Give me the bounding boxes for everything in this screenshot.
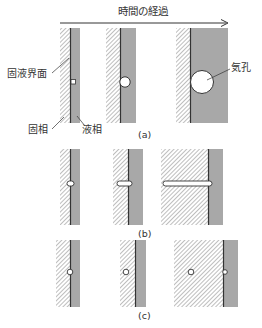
time-axis-title: 時間の経過 xyxy=(118,6,168,17)
label-liquid: 液相 xyxy=(82,125,102,135)
caption-b: (b) xyxy=(138,229,151,239)
row-a xyxy=(52,28,230,129)
pore-small xyxy=(71,80,76,85)
pore-medium xyxy=(120,77,130,87)
time-arrow xyxy=(60,20,228,27)
panel-b2 xyxy=(113,149,143,225)
panel-c1 xyxy=(56,240,80,307)
row-c xyxy=(56,240,238,307)
label-interface: 固液界面 xyxy=(7,69,47,79)
panel-c2 xyxy=(120,240,146,307)
panel-a3 xyxy=(176,28,228,123)
caption-a: (a) xyxy=(138,130,151,140)
panel-a2 xyxy=(106,28,136,123)
label-solid: 固相 xyxy=(28,125,48,135)
panel-c3 xyxy=(174,240,238,307)
panel-a1 xyxy=(60,28,80,123)
caption-c: (c) xyxy=(138,311,151,321)
panel-b1 xyxy=(60,149,80,225)
panel-b3 xyxy=(161,149,223,225)
diagram-canvas xyxy=(0,0,262,328)
pore-large xyxy=(191,71,214,94)
row-b xyxy=(60,149,223,225)
label-pore: 気孔 xyxy=(231,63,251,73)
